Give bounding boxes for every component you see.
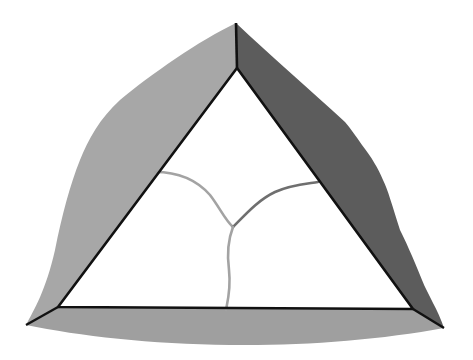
faceted-triangle-diagram [0,0,473,360]
crease-top [236,23,237,68]
bottom-face [26,307,444,345]
